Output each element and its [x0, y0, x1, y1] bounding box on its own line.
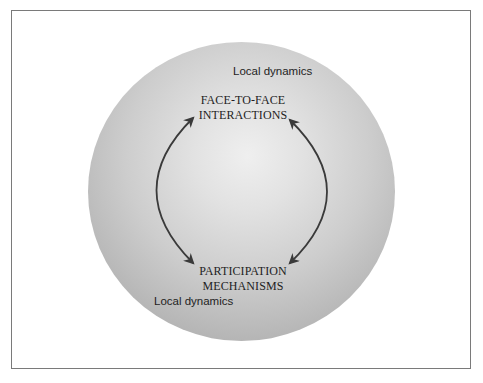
right-bidirectional-arrow-icon: [290, 120, 327, 263]
cycle-arrows: [0, 0, 483, 383]
left-bidirectional-arrow-icon: [157, 118, 194, 263]
